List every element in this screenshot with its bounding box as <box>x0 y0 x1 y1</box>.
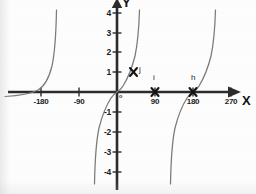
y-tick-label-4: 4 <box>101 9 111 18</box>
x-axis <box>8 87 241 98</box>
x-tick-label-180: 180 <box>187 98 199 106</box>
y-tick-label-1: 1 <box>101 68 111 77</box>
x-tick-label-minus-90: -90 <box>74 98 85 106</box>
y-tick-label-minus-2: -2 <box>97 128 111 137</box>
y-tick-label-minus-4: -4 <box>97 168 111 177</box>
y-tick-label-minus-1: -1 <box>97 108 111 117</box>
point-label-j: j <box>139 66 141 74</box>
x-tick-label-270: 270 <box>225 98 237 106</box>
y-tick-label-minus-3: -3 <box>97 148 111 157</box>
origin-label: o <box>119 94 122 100</box>
y-axis-label: Y <box>122 0 131 9</box>
x-axis-label: X <box>242 94 251 107</box>
y-tick-label-3: 3 <box>101 29 111 38</box>
tangent-graph-figure: -180 -90 90 180 270 4 3 2 1 -1 -2 -3 -4 … <box>0 0 256 194</box>
point-label-h: h <box>191 74 195 82</box>
x-tick-label-90: 90 <box>151 98 159 106</box>
tangent-branch-left <box>5 10 57 97</box>
x-tick-label-minus-180: -180 <box>34 98 49 106</box>
point-label-i: i <box>153 74 155 82</box>
point-marker-j[interactable] <box>130 68 137 76</box>
y-tick-label-2: 2 <box>101 48 111 57</box>
